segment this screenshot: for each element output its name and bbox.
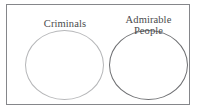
set-circle-criminals[interactable] [25, 30, 104, 100]
universal-set-frame: Criminals Admirable People [6, 4, 190, 105]
set-label-admirable-people: Admirable People [108, 14, 189, 37]
venn-diagram: Criminals Admirable People [0, 0, 198, 112]
set-label-criminals: Criminals [25, 18, 105, 29]
set-circle-admirable-people[interactable] [109, 30, 188, 100]
